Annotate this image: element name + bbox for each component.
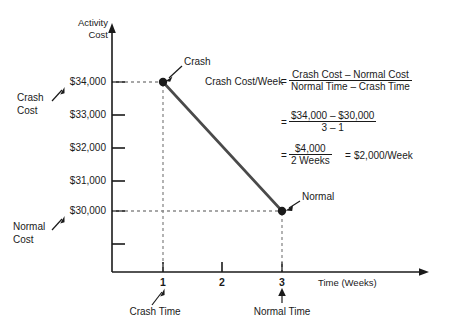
crash-cost-arrow-shaft xyxy=(52,90,62,101)
x-axis-arrowhead xyxy=(419,268,429,276)
normal-point-label: Normal xyxy=(302,191,334,202)
normal-cost-label-line1: Normal xyxy=(13,221,45,234)
normal-time-arrowhead xyxy=(278,288,286,296)
formula-equals-1: = xyxy=(281,76,287,87)
cost-time-data-line xyxy=(163,82,282,211)
formula-result: $2,000/Week xyxy=(354,150,413,161)
normal-cost-label-line2: Cost xyxy=(13,234,34,247)
x-axis-title: Time (Weeks) xyxy=(318,278,377,289)
formula-fraction-2-numerator: $34,000 – $30,000 xyxy=(289,110,376,122)
formula-fraction-2-denominator: 3 – 1 xyxy=(289,122,376,133)
normal-callout-arrow-shaft xyxy=(289,201,300,208)
formula-fraction-3-denominator: 2 Weeks xyxy=(289,155,332,166)
formula-fraction-1-denominator: Normal Time – Crash Time xyxy=(289,81,412,92)
y-axis-title-line2: Cost xyxy=(62,30,108,41)
y-tick-label-31000: $31,000 xyxy=(42,175,106,186)
y-axis-title-line1: Activity xyxy=(62,18,108,29)
y-tick-label-33000: $33,000 xyxy=(42,109,106,120)
crash-cost-chart-figure: Activity Cost Time (Weeks) $34,000 $33,0… xyxy=(0,0,449,331)
formula-fraction-2: $34,000 – $30,000 3 – 1 xyxy=(289,110,376,133)
data-point-crash xyxy=(159,78,167,86)
crash-callout-arrow-shaft xyxy=(169,66,182,78)
crash-cost-label-line2: Cost xyxy=(17,105,38,118)
formula-equals-3: = xyxy=(281,150,287,161)
crash-point-label: Crash xyxy=(184,56,211,67)
crash-time-arrow-shaft xyxy=(152,292,162,305)
formula-lhs: Crash Cost/Week xyxy=(205,76,283,87)
crash-time-label: Crash Time xyxy=(105,306,205,317)
y-axis-arrowhead xyxy=(108,23,116,33)
normal-cost-arrow-shaft xyxy=(52,219,62,230)
x-tick-label-1: 1 xyxy=(154,277,172,289)
x-tick-label-3: 3 xyxy=(273,277,291,289)
formula-result-equals: = xyxy=(345,150,351,161)
formula-fraction-3: $4,000 2 Weeks xyxy=(289,143,332,166)
crash-cost-label-line1: Crash xyxy=(17,92,44,105)
normal-time-label: Normal Time xyxy=(232,306,332,317)
formula-fraction-1: Crash Cost – Normal Cost Normal Time – C… xyxy=(289,69,412,92)
formula-equals-2: = xyxy=(281,117,287,128)
y-tick-label-34000: $34,000 xyxy=(42,76,106,87)
formula-fraction-3-numerator: $4,000 xyxy=(289,143,332,155)
y-tick-label-30000: $30,000 xyxy=(42,205,106,216)
normal-callout-arrowhead xyxy=(286,206,294,211)
y-tick-label-32000: $32,000 xyxy=(42,142,106,153)
formula-fraction-1-numerator: Crash Cost – Normal Cost xyxy=(289,69,412,81)
x-tick-label-2: 2 xyxy=(213,277,231,289)
data-point-normal xyxy=(278,207,286,215)
